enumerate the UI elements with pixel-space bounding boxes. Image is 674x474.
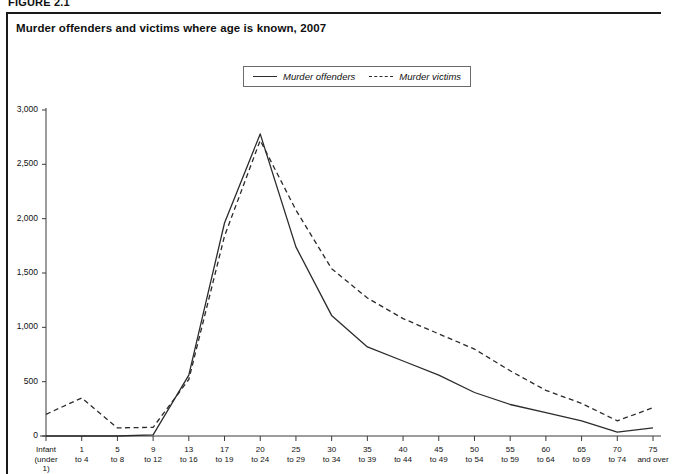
legend-swatch-solid-line-icon xyxy=(253,76,277,78)
y-axis-tick-label: 0 xyxy=(0,430,38,440)
legend-item-murder-victims: Murder victims xyxy=(369,71,461,82)
figure-label: FIGURE 2.1 xyxy=(8,0,70,8)
y-axis-tick-label: 1,500 xyxy=(0,267,38,277)
legend-label-murder-victims: Murder victims xyxy=(399,71,461,82)
y-axis-tick-label: 1,000 xyxy=(0,321,38,331)
x-axis-tick-label: 75and over xyxy=(626,445,674,464)
y-axis-tick-label: 3,000 xyxy=(0,104,38,114)
y-axis-tick-label: 500 xyxy=(0,376,38,386)
legend-label-murder-offenders: Murder offenders xyxy=(283,71,355,82)
legend-item-murder-offenders: Murder offenders xyxy=(253,71,355,82)
y-axis-tick-label: 2,500 xyxy=(0,158,38,168)
chart-legend: Murder offenders Murder victims xyxy=(243,66,471,87)
legend-swatch-dashed-line-icon xyxy=(369,76,393,78)
y-axis-tick-label: 2,000 xyxy=(0,213,38,223)
chart-title: Murder offenders and victims where age i… xyxy=(16,22,326,34)
